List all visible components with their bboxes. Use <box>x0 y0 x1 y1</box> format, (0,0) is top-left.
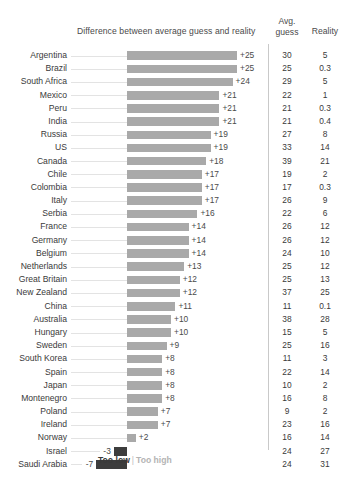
bar <box>127 236 189 245</box>
country-label: US <box>0 141 67 154</box>
cell-reality: 5 <box>306 75 344 88</box>
chart-row: South Korea+8113 <box>0 352 346 365</box>
leader-line <box>71 451 100 452</box>
bar-value-label: -7 <box>82 458 93 471</box>
bar-value-label: +7 <box>161 418 171 431</box>
column-header-avg-guess: Avg. guess <box>270 16 304 37</box>
bar-value-label: +11 <box>178 300 192 313</box>
chart-row: Hungary+10155 <box>0 326 346 339</box>
country-label: Germany <box>0 234 67 247</box>
country-label: Montenegro <box>0 392 67 405</box>
cell-reality: 14 <box>306 366 344 379</box>
country-label: Italy <box>0 194 67 207</box>
bar <box>127 328 171 337</box>
chart-row: Brazil+25250.3 <box>0 62 346 75</box>
bar-value-label: +8 <box>165 379 175 392</box>
chart-row: Serbia+16226 <box>0 207 346 220</box>
bar-value-label: +12 <box>183 273 197 286</box>
bar <box>127 249 189 258</box>
cell-avg-guess: 37 <box>270 286 304 299</box>
column-header-avg-guess-line2: guess <box>270 27 304 38</box>
cell-reality: 9 <box>306 194 344 207</box>
cell-reality: 0.3 <box>306 62 344 75</box>
bar-value-label: +21 <box>222 115 236 128</box>
legend-too-high: Too high <box>136 455 172 465</box>
cell-avg-guess: 22 <box>270 366 304 379</box>
leader-line <box>71 306 127 307</box>
bar-value-label: +9 <box>170 339 180 352</box>
country-label: China <box>0 300 67 313</box>
bar <box>127 144 211 153</box>
chart-row: Montenegro+8168 <box>0 392 346 405</box>
bar <box>127 196 202 205</box>
bar <box>127 104 219 113</box>
cell-reality: 28 <box>306 313 344 326</box>
chart-row: Spain+82214 <box>0 366 346 379</box>
bar-value-label: +14 <box>192 220 206 233</box>
chart-row: Belgium+142410 <box>0 247 346 260</box>
chart-row: Chile+17192 <box>0 168 346 181</box>
bar-value-label: +17 <box>205 194 219 207</box>
cell-reality: 2 <box>306 379 344 392</box>
bar <box>127 78 233 87</box>
leader-line <box>71 214 127 215</box>
chart-row: US+193314 <box>0 141 346 154</box>
cell-reality: 8 <box>306 392 344 405</box>
bar <box>127 394 162 403</box>
cell-reality: 13 <box>306 273 344 286</box>
chart-row: Ireland+72316 <box>0 418 346 431</box>
chart-row: Netherlands+132512 <box>0 260 346 273</box>
cell-avg-guess: 11 <box>270 300 304 313</box>
leader-line <box>71 174 127 175</box>
chart-row: Poland+792 <box>0 405 346 418</box>
country-label: Brazil <box>0 62 67 75</box>
cell-avg-guess: 39 <box>270 155 304 168</box>
cell-avg-guess: 11 <box>270 352 304 365</box>
cell-avg-guess: 38 <box>270 313 304 326</box>
cell-avg-guess: 25 <box>270 260 304 273</box>
leader-line <box>71 69 127 70</box>
country-label: Colombia <box>0 181 67 194</box>
country-label: Poland <box>0 405 67 418</box>
country-label: South Africa <box>0 75 67 88</box>
cell-reality: 21 <box>306 155 344 168</box>
bar-value-label: +17 <box>205 168 219 181</box>
leader-line <box>71 227 127 228</box>
leader-line <box>71 372 127 373</box>
cell-avg-guess: 25 <box>270 339 304 352</box>
bar <box>127 355 162 364</box>
chart-row: Sweden+92516 <box>0 339 346 352</box>
bar-value-label: +25 <box>240 49 254 62</box>
bar-value-label: +13 <box>187 260 201 273</box>
leader-line <box>71 56 127 57</box>
cell-reality: 12 <box>306 260 344 273</box>
bar-value-label: +2 <box>139 431 149 444</box>
cell-avg-guess: 24 <box>270 247 304 260</box>
country-label: New Zealand <box>0 286 67 299</box>
country-label: Serbia <box>0 207 67 220</box>
leader-line <box>71 187 127 188</box>
cell-reality: 27 <box>306 445 344 458</box>
country-label: Great Britain <box>0 273 67 286</box>
chart-row: Israel-32427 <box>0 445 346 458</box>
leader-line <box>71 385 127 386</box>
cell-reality: 0.4 <box>306 115 344 128</box>
cell-avg-guess: 10 <box>270 379 304 392</box>
chart-row: Japan+8102 <box>0 379 346 392</box>
cell-avg-guess: 30 <box>270 49 304 62</box>
bar-value-label: +8 <box>165 352 175 365</box>
bar-value-label: +12 <box>183 286 197 299</box>
bar-value-label: +16 <box>200 207 214 220</box>
country-label: Japan <box>0 379 67 392</box>
cell-reality: 2 <box>306 405 344 418</box>
chart-row: Australia+103828 <box>0 313 346 326</box>
bar <box>127 421 158 430</box>
cell-avg-guess: 27 <box>270 128 304 141</box>
cell-avg-guess: 25 <box>270 62 304 75</box>
cell-reality: 16 <box>306 418 344 431</box>
bar-value-label: +14 <box>192 247 206 260</box>
leader-line <box>71 359 127 360</box>
country-label: Norway <box>0 431 67 444</box>
leader-line <box>71 108 127 109</box>
bar-value-label: +8 <box>165 392 175 405</box>
